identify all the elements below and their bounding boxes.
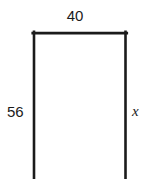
left-side-length-label: 56	[7, 104, 24, 119]
right-side-unknown-label: x	[132, 104, 139, 119]
figure-background	[0, 0, 150, 179]
rectangle-outline-svg	[0, 0, 150, 179]
top-side-length-label: 40	[0, 8, 150, 23]
geometry-figure: 40 56 x	[0, 0, 150, 179]
